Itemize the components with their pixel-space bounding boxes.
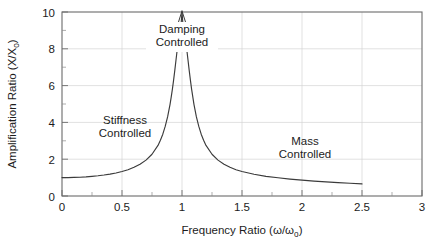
x-tick-label-2: 2 — [299, 201, 305, 213]
y-tick-label-0: 0 — [49, 191, 55, 203]
annotation-stiffness-line1: Stiffness — [103, 114, 147, 126]
annotation-damping-controlled: Damping Controlled — [146, 22, 218, 52]
y-axis-title-close: ) — [6, 39, 18, 43]
y-axis-title-main: Amplification Ratio (X/X — [6, 47, 18, 168]
x-axis-title-omega1: ω — [273, 224, 282, 236]
x-axis-ticks — [62, 190, 422, 196]
x-tick-label-0: 0 — [59, 201, 65, 213]
x-tick-label-1: 1 — [179, 201, 185, 213]
y-tick-label-4: 4 — [49, 117, 56, 129]
y-axis-ticks — [62, 12, 68, 196]
x-axis-title: Frequency Ratio (ω/ωo) — [182, 224, 303, 239]
figure-container: Damping Controlled Stiffness Controlled … — [0, 0, 441, 245]
y-tick-label-2: 2 — [49, 154, 55, 166]
y-axis-title: Amplification Ratio (X/Xo) — [6, 39, 21, 168]
annotation-mass-line1: Mass — [291, 135, 319, 147]
y-tick-label-8: 8 — [49, 43, 55, 55]
annotation-stiffness-controlled: Stiffness Controlled — [99, 114, 151, 139]
annotation-damping-line1: Damping — [159, 23, 205, 35]
annotation-mass-line2: Controlled — [279, 148, 331, 160]
x-tick-label-1.5: 1.5 — [234, 201, 250, 213]
x-axis-title-main: Frequency Ratio ( — [182, 224, 274, 236]
amplification-ratio-chart: Damping Controlled Stiffness Controlled … — [0, 0, 441, 245]
y-tick-labels: 0 2 4 6 8 10 — [42, 7, 55, 203]
annotation-damping-line2: Controlled — [156, 36, 208, 48]
annotation-stiffness-line2: Controlled — [99, 127, 151, 139]
x-tick-label-0.5: 0.5 — [114, 201, 130, 213]
x-axis-title-omega2: ω — [285, 224, 294, 236]
x-tick-labels: 0 0.5 1 1.5 2 2.5 3 — [59, 201, 425, 213]
annotation-mass-controlled: Mass Controlled — [279, 135, 331, 160]
y-tick-label-6: 6 — [49, 80, 55, 92]
x-axis-title-close: ) — [299, 224, 303, 236]
x-tick-label-2.5: 2.5 — [354, 201, 370, 213]
y-tick-label-10: 10 — [42, 7, 55, 19]
x-tick-label-3: 3 — [419, 201, 425, 213]
